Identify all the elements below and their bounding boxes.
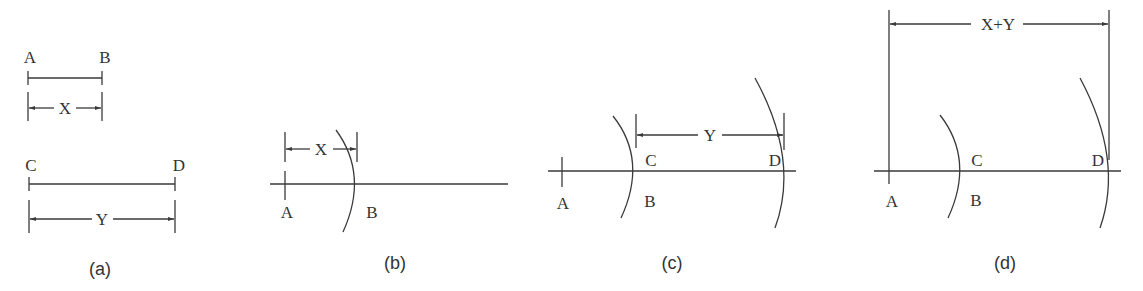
point-label-d: D xyxy=(1092,151,1104,170)
panel-c: Y A B C D (c) xyxy=(548,78,796,273)
point-label-a: A xyxy=(24,48,37,67)
compass-arc-b xyxy=(940,115,960,218)
compass-arc xyxy=(336,130,354,232)
point-label-a: A xyxy=(557,194,570,213)
point-label-c: C xyxy=(645,151,656,170)
point-label-b: B xyxy=(366,203,377,222)
caption-d: (d) xyxy=(994,253,1016,273)
point-label-a: A xyxy=(281,203,294,222)
point-label-c: C xyxy=(25,156,36,175)
segment-ab xyxy=(28,71,102,85)
point-label-b: B xyxy=(99,48,110,67)
point-label-d: D xyxy=(173,156,185,175)
segment-cd xyxy=(29,177,175,191)
dimension-label-y: Y xyxy=(96,210,108,229)
caption-b: (b) xyxy=(384,253,406,273)
construction-figure: A B X C D Y (a) xyxy=(0,0,1143,291)
dimension-label-x-plus-y: X+Y xyxy=(981,15,1015,34)
caption-c: (c) xyxy=(662,253,683,273)
panel-a: A B X C D Y (a) xyxy=(24,48,185,279)
point-label-a: A xyxy=(886,192,899,211)
panel-d: X+Y A B C D (d) xyxy=(874,10,1121,273)
panel-b: X A B (b) xyxy=(270,130,508,273)
point-label-c: C xyxy=(971,151,982,170)
compass-arc-b xyxy=(613,116,633,218)
dimension-label-y: Y xyxy=(704,126,716,145)
dimension-label-x: X xyxy=(315,140,327,159)
dimension-label-x: X xyxy=(59,99,71,118)
point-label-b: B xyxy=(644,192,655,211)
point-label-b: B xyxy=(970,191,981,210)
point-label-d: D xyxy=(769,151,781,170)
caption-a: (a) xyxy=(89,259,111,279)
